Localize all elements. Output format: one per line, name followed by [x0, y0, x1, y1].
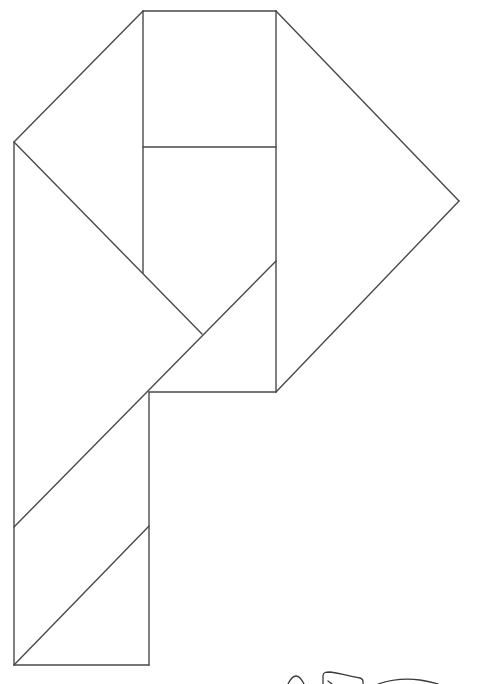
outline-edges	[14, 11, 459, 665]
scribble-loop	[288, 676, 304, 684]
edge-bottom-diagonal	[14, 526, 149, 665]
tangram-svg	[0, 0, 490, 684]
internal-edges	[14, 11, 276, 665]
tangram-diagram	[0, 0, 490, 684]
edge-lower-right-diagonal	[276, 201, 459, 392]
edge-upper-right-diagonal	[276, 11, 459, 201]
scribble-arc	[378, 679, 438, 684]
edge-upper-left-diagonal	[14, 11, 143, 142]
handwritten-scribble	[288, 672, 438, 684]
edge-left-peak-diagonal	[14, 142, 202, 334]
edge-long-diagonal	[14, 261, 276, 527]
